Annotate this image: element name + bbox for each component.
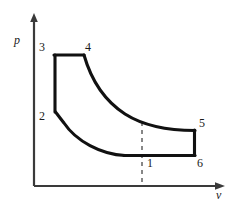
y-axis-arrow-icon <box>30 13 38 22</box>
state-label-5: 5 <box>199 117 205 129</box>
state-label-1: 1 <box>147 157 153 169</box>
state-label-3: 3 <box>39 41 45 53</box>
pv-diagram-figure: p v 1 2 3 4 5 6 <box>0 0 239 207</box>
state-label-4: 4 <box>85 41 91 53</box>
state-label-2: 2 <box>39 110 45 122</box>
process-4-5-expansion <box>84 55 195 131</box>
x-axis-label: v <box>216 189 221 201</box>
diagram-canvas <box>0 0 239 207</box>
state-label-6: 6 <box>197 157 203 169</box>
y-axis-label: p <box>14 34 20 46</box>
process-1-2-intake <box>56 112 126 156</box>
